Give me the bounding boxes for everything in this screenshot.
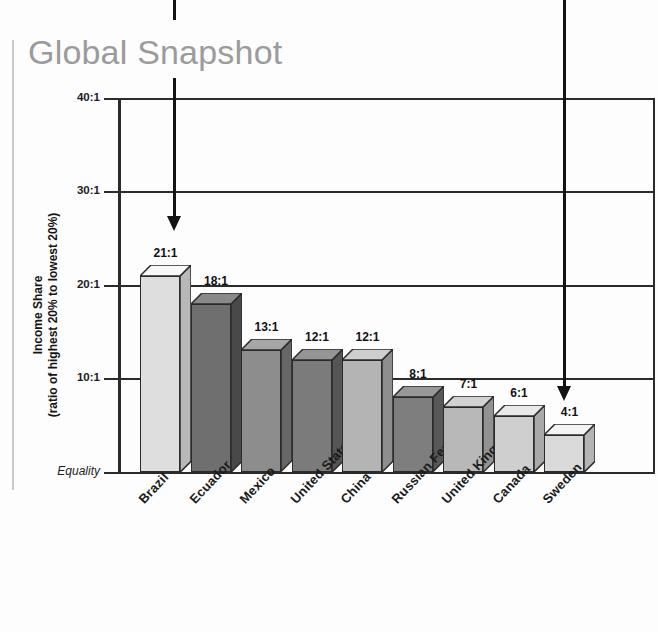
arrow-sweden-line	[563, 0, 566, 388]
category-label-brazil: Brazil	[136, 470, 172, 507]
bar-mexico	[241, 339, 292, 472]
bar-value-label: 6:1	[484, 386, 554, 400]
bars-layer: 21:1Brazil18:1Ecuador13:1Mexico12:1Unite…	[0, 0, 658, 632]
bar-top-face	[241, 339, 292, 472]
category-label-china: China	[338, 469, 374, 506]
arrow-brazil-stub	[173, 0, 176, 20]
bar-value-label: 4:1	[535, 405, 605, 419]
bar-value-label: 18:1	[181, 274, 251, 288]
arrow-sweden-head	[557, 386, 571, 401]
arrow-brazil-line	[173, 78, 176, 218]
bar-value-label: 12:1	[333, 330, 403, 344]
bar-value-label: 21:1	[131, 246, 201, 260]
arrow-brazil-head	[167, 216, 181, 231]
bar-brazil	[140, 265, 191, 472]
chart-page: Global Snapshot Income Share (ratio of h…	[0, 0, 658, 632]
bar-top-face	[140, 265, 191, 472]
